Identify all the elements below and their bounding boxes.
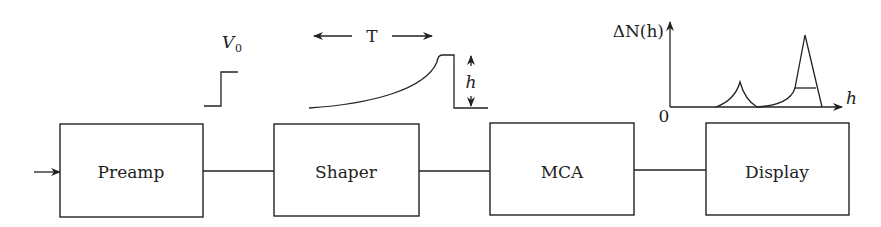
large-peak [757, 35, 822, 107]
spectrum-x-label: h [846, 88, 857, 108]
display-label: Display [745, 162, 809, 182]
shaper-pulse-signal: T h [309, 26, 488, 108]
display-block: Display [706, 123, 849, 215]
mca-block: MCA [490, 123, 634, 215]
height-label: h [466, 72, 477, 92]
small-peak [716, 82, 757, 107]
shaper-block: Shaper [274, 124, 419, 216]
signal-chain-diagram: Preamp Shaper MCA Display V 0 T h ΔN(h) [0, 0, 881, 227]
preamp-block: Preamp [60, 124, 203, 217]
v0-subscript: 0 [235, 42, 242, 55]
pulse-height-spectrum: ΔN(h) h 0 [613, 21, 857, 126]
spectrum-y-label: ΔN(h) [613, 21, 664, 41]
preamp-label: Preamp [98, 162, 165, 182]
shaper-label: Shaper [315, 162, 378, 182]
v0-label: V [222, 32, 236, 52]
period-label: T [366, 26, 378, 46]
spectrum-origin-label: 0 [659, 106, 670, 126]
preamp-step-signal: V 0 [204, 32, 242, 106]
mca-label: MCA [541, 162, 584, 182]
